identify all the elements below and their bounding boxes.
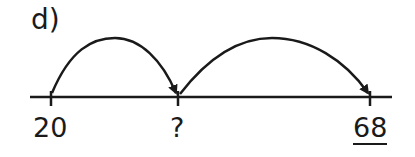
tick-label-unknown: ? [170,114,184,141]
tick-label-20: 20 [33,114,67,141]
jump-arrow-2 [180,38,368,94]
tick-label-68: 68 [353,114,387,145]
number-line-exercise: d) 20 ? 68 [0,0,415,157]
jump-arrow-1 [52,38,176,93]
